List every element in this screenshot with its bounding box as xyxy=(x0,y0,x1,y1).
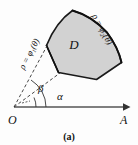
angle-beta-label: β xyxy=(37,82,44,94)
region-label-d: D xyxy=(68,37,79,52)
figure-caption: (a) xyxy=(63,131,75,143)
ray-alpha-dashed xyxy=(14,73,60,107)
origin-label: O xyxy=(8,113,17,127)
inner-curve-label: ρ = φ₁(θ) xyxy=(16,37,41,72)
axis-endpoint-label: A xyxy=(119,113,128,127)
angle-tick-origin xyxy=(22,101,30,103)
polar-region-figure: D O A α β ρ = φ₁(θ) ρ = φ₂(θ) (a) xyxy=(0,0,138,145)
angle-alpha-label: α xyxy=(57,90,63,102)
angle-arc-alpha xyxy=(34,98,36,108)
axis-arrowhead-icon xyxy=(123,103,131,111)
figure-canvas: D O A α β ρ = φ₁(θ) ρ = φ₂(θ) (a) xyxy=(0,0,138,145)
